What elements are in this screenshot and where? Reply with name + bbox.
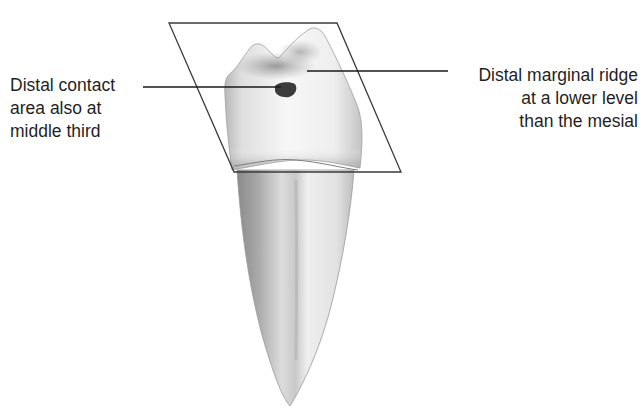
tooth-illustration <box>0 0 642 406</box>
crown-cervical-shade <box>225 95 362 170</box>
label-left-line-1: Distal contact <box>10 74 115 97</box>
label-distal-contact-area: Distal contact area also at middle third <box>10 74 115 143</box>
label-left-line-2: area also at <box>10 97 115 120</box>
label-right-line-3: than the mesial <box>478 110 638 133</box>
label-right-line-1: Distal marginal ridge <box>478 64 638 87</box>
label-distal-marginal-ridge: Distal marginal ridge at a lower level t… <box>478 64 638 133</box>
label-left-line-3: middle third <box>10 120 115 143</box>
label-right-line-2: at a lower level <box>478 87 638 110</box>
marginal-ridge-shade <box>278 40 322 64</box>
tooth-diagram: Distal contact area also at middle third… <box>0 0 642 406</box>
root-groove <box>296 180 297 360</box>
